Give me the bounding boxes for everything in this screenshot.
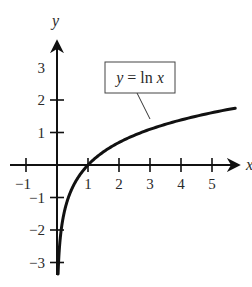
x-tick-label: 4	[177, 176, 185, 192]
ln-graph: x y −112345 321−1−2−3 y = ln x	[0, 0, 252, 287]
label-eq: =	[123, 69, 140, 86]
y-tick-label: 3	[38, 60, 46, 76]
y-tick-label: −2	[29, 222, 45, 238]
x-tick-label: 1	[84, 176, 92, 192]
y-axis-title: y	[50, 12, 60, 30]
y-tick-label: −1	[29, 190, 45, 206]
y-tick-label: 2	[38, 92, 46, 108]
x-ticks: −112345	[15, 158, 216, 192]
x-tick-label: 3	[146, 176, 154, 192]
label-fn: ln	[140, 69, 152, 86]
y-axis: y	[50, 12, 60, 275]
y-tick-label: −3	[29, 255, 45, 271]
label-arg: x	[156, 69, 164, 86]
x-axis-title: x	[245, 156, 252, 173]
y-tick-label: 1	[38, 125, 46, 141]
function-annotation: y = ln x	[105, 62, 175, 119]
x-axis: x	[10, 156, 252, 173]
x-tick-label: 2	[115, 176, 123, 192]
x-tick-label: 5	[208, 176, 216, 192]
function-label: y = ln x	[114, 69, 164, 87]
